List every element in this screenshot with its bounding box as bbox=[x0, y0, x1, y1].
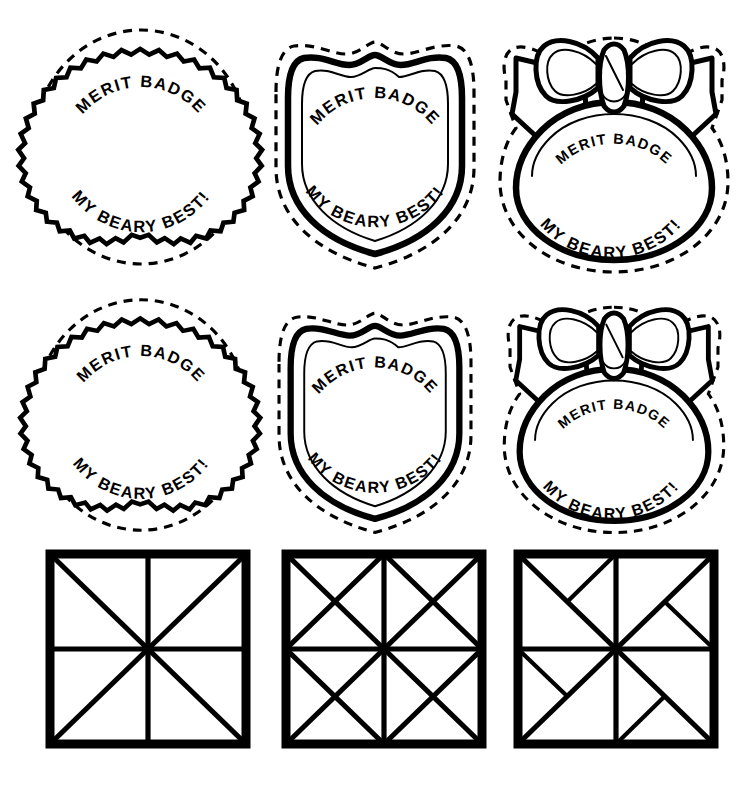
medallion-body bbox=[516, 102, 712, 260]
pinwheel-spoke-top-right bbox=[665, 602, 714, 649]
starburst-edge-icon bbox=[18, 49, 262, 244]
pinwheel-spoke-bottom-left bbox=[518, 649, 567, 696]
badge-circle-starburst-row1[interactable]: MERIT BADGE MY BEARY BEST! bbox=[18, 16, 264, 278]
badge-bow-ribbon-row2[interactable]: MERIT BADGE MY BEARY BEST! bbox=[486, 288, 742, 546]
quilt-block-eight-point[interactable] bbox=[44, 548, 252, 750]
badge-bow-ribbon-row1[interactable]: MERIT BADGE MY BEARY BEST! bbox=[486, 18, 742, 286]
badge-shield-row2[interactable]: MERIT BADGE MY BEARY BEST! bbox=[250, 292, 500, 546]
pinwheel-spoke-bottom-right bbox=[616, 696, 665, 744]
medallion-body bbox=[520, 369, 709, 521]
badge-template-sheet: MERIT BADGE MY BEARY BEST! MERIT BADGE M… bbox=[0, 0, 746, 792]
starburst-edge-icon bbox=[20, 318, 260, 510]
badge-shield-row1[interactable]: MERIT BADGE MY BEARY BEST! bbox=[250, 20, 500, 282]
pinwheel-spoke-top-left bbox=[567, 554, 616, 602]
quilt-block-diamond[interactable] bbox=[280, 548, 488, 750]
badge-circle-starburst-row2[interactable]: MERIT BADGE MY BEARY BEST! bbox=[18, 286, 264, 544]
quilt-block-pinwheel[interactable] bbox=[512, 548, 720, 750]
